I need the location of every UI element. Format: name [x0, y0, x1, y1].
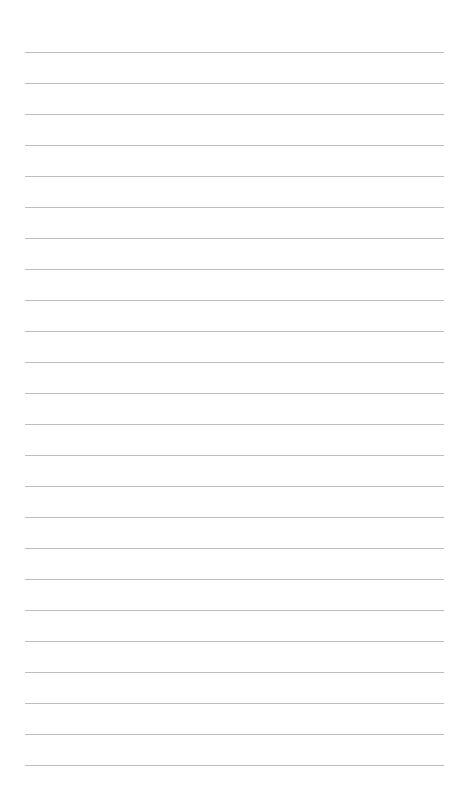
- ruled-line: [25, 548, 444, 549]
- ruled-line: [25, 176, 444, 177]
- ruled-line: [25, 52, 444, 53]
- ruled-line: [25, 269, 444, 270]
- ruled-line: [25, 455, 444, 456]
- ruled-line: [25, 486, 444, 487]
- ruled-line: [25, 300, 444, 301]
- ruled-line: [25, 362, 444, 363]
- ruled-line: [25, 579, 444, 580]
- ruled-line: [25, 331, 444, 332]
- ruled-line: [25, 765, 444, 766]
- ruled-line: [25, 393, 444, 394]
- ruled-line: [25, 83, 444, 84]
- ruled-line: [25, 672, 444, 673]
- ruled-line: [25, 424, 444, 425]
- ruled-line: [25, 734, 444, 735]
- ruled-line: [25, 610, 444, 611]
- ruled-line: [25, 517, 444, 518]
- ruled-line: [25, 238, 444, 239]
- ruled-line: [25, 641, 444, 642]
- ruled-line: [25, 114, 444, 115]
- ruled-line: [25, 703, 444, 704]
- lined-paper-page: [0, 0, 467, 799]
- ruled-line: [25, 145, 444, 146]
- ruled-line: [25, 207, 444, 208]
